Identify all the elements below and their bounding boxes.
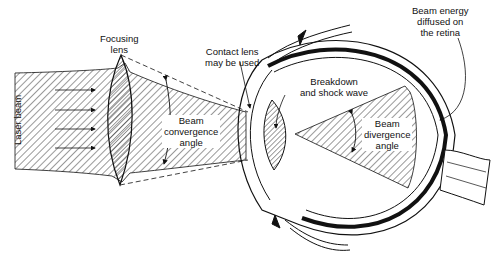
focusing-lens-label: Focusinglens [100,33,139,55]
crystalline-lens [264,100,286,170]
breakdown-label: Breakdownand shock wave [300,76,368,98]
convergence-label: Beamconvergenceangle [162,115,220,148]
laser-beam-label: Laser beam [12,95,23,145]
laser-eye-diagram [0,0,492,263]
divergence-label: Beamdivergenceangle [362,118,412,151]
contact-lens-label: Contact lensmay be used [205,46,259,68]
optic-nerve [440,150,490,205]
beam-energy-label: Beam energydiffused onthe retina [412,5,469,38]
